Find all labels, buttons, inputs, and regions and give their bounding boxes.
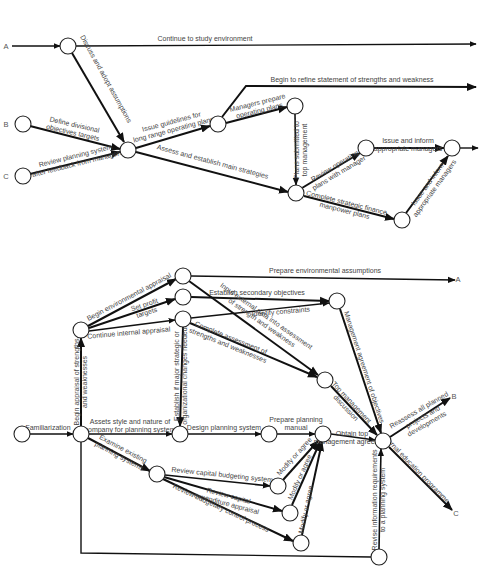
edge-label: Plans submitted totop management — [293, 121, 309, 179]
edge-label: Familiarization — [25, 424, 70, 431]
event-node-tB — [15, 116, 31, 132]
event-node-b12 — [149, 466, 165, 482]
connector-B_out: B — [451, 392, 456, 401]
event-node-t6 — [358, 140, 374, 156]
edge-label: Reassess all plannedprojects anddevelopm… — [388, 390, 458, 444]
edge-label: Assets style and nature ofcompany for pl… — [84, 418, 175, 434]
edge-label: Issue guidelines forlong range operating… — [130, 107, 215, 144]
edge-label: Issue and informappropriate managers — [374, 137, 443, 153]
event-node-b11 — [375, 433, 391, 449]
diagram-svg: Continue to study environmentDiscuss and… — [0, 0, 500, 580]
edge-label: Design planning system — [187, 424, 261, 432]
event-node-t8 — [394, 212, 410, 228]
edge-label: Review planning systemafter feedback fro… — [29, 141, 124, 179]
edge-label: Complete assessment ofstrengths and weak… — [188, 319, 271, 365]
event-node-b8 — [317, 372, 333, 388]
label-layer: Continue to study environmentDiscuss and… — [25, 34, 458, 551]
event-node-t5 — [288, 185, 304, 201]
event-node-b15 — [293, 535, 309, 551]
event-node-t3 — [210, 116, 226, 132]
edge-label: Examine existingplanning systems — [93, 433, 149, 473]
edge-label: Issue and informappropriate managers — [405, 153, 458, 218]
event-node-b13 — [270, 478, 286, 494]
edge-label: Review operatingplans with manager — [307, 147, 368, 192]
edge-label: Prepare planningmanual — [269, 416, 322, 431]
event-node-b14 — [282, 505, 298, 521]
edge-label: Establish if major strategic ororganizat… — [173, 327, 189, 424]
event-node-b5 — [175, 311, 191, 327]
event-node-b2 — [73, 426, 89, 442]
edge-label: Modify or agree — [297, 485, 315, 534]
connector-B_in: B — [3, 120, 8, 129]
event-node-t7 — [444, 140, 460, 156]
event-node-b3 — [175, 268, 191, 284]
event-node-t1 — [60, 38, 76, 54]
event-node-b0 — [14, 426, 30, 442]
event-node-t2 — [120, 142, 136, 158]
connector-C_in: C — [3, 172, 9, 181]
edge-label: Define divisionalobjectives targets — [45, 115, 102, 143]
event-node-b6 — [172, 426, 188, 442]
event-node-b9 — [261, 426, 277, 442]
event-node-b4 — [175, 289, 191, 305]
activity-network-diagram: Continue to study environmentDiscuss and… — [0, 0, 500, 580]
event-node-b7 — [329, 293, 345, 309]
edge-label: Complete strategic financemanpower plans — [303, 189, 387, 225]
connector-A_in: A — [3, 42, 8, 51]
connector-A_out: A — [455, 275, 460, 284]
event-node-tC — [15, 168, 31, 184]
edge-label: Continue internal appraisal — [87, 325, 171, 340]
event-node-t4 — [287, 98, 303, 114]
edge-t1-end — [76, 44, 476, 46]
edge-label: Begin to refine statement of strengths a… — [270, 76, 434, 84]
edge-label: Continue to study environment — [158, 35, 253, 43]
event-node-b16 — [371, 549, 387, 565]
connector-C_out: C — [453, 509, 459, 518]
edge-label: Prepare environmental assumptions — [269, 267, 382, 275]
event-node-b10 — [315, 426, 331, 442]
edge-b3-A_out — [191, 276, 455, 280]
event-node-b1 — [73, 322, 89, 338]
